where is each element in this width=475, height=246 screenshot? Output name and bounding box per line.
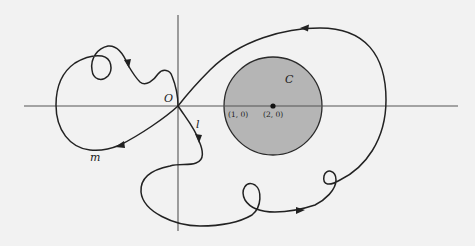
origin-label: O — [164, 92, 173, 105]
arrow-l-down — [195, 134, 202, 143]
center-point — [270, 103, 275, 108]
curve-m-label: m — [90, 151, 100, 164]
arrow-top-left-pointing — [300, 25, 309, 32]
curve-m — [56, 46, 178, 150]
diagram-figure: O l m C (1, 0) (2, 0) — [0, 0, 475, 246]
region-c-label: C — [285, 73, 294, 86]
point-1-0-label: (1, 0) — [228, 110, 248, 119]
curve-l-label: l — [196, 118, 200, 131]
arrow-m-left-pointing — [115, 141, 125, 148]
point-2-0-label: (2, 0) — [263, 110, 283, 119]
arrow-wiggle-down — [124, 59, 131, 68]
